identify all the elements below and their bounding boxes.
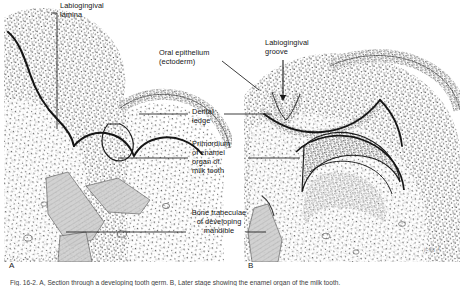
label-bone-trabeculae-line3: mandible (190, 227, 248, 236)
panel-b-artwork (244, 53, 460, 262)
label-enamel-organ-line4: milk tooth (192, 167, 224, 176)
label-labiogingival-lamina-line2: lamina (60, 11, 82, 20)
figure-panel: Labiogingival lamina Oral epithelium (ec… (0, 0, 460, 286)
panel-label-b: B (248, 261, 254, 270)
label-labiogingival-groove-line2: groove (265, 48, 288, 57)
label-oral-epithelium-line2: (ectoderm) (159, 58, 195, 67)
artist-mark: jc4g 4 (424, 246, 440, 252)
leader-oral-epithelium (222, 61, 259, 90)
panel-label-a: A (9, 261, 15, 270)
label-dental-ledge-line2: ledge (192, 117, 210, 126)
figure-caption: Fig. 16-2. A, Section through a developi… (10, 279, 450, 286)
